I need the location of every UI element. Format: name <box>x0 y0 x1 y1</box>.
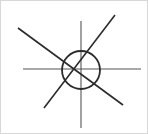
geometric-figure <box>1 1 148 134</box>
figure-frame <box>0 0 148 134</box>
